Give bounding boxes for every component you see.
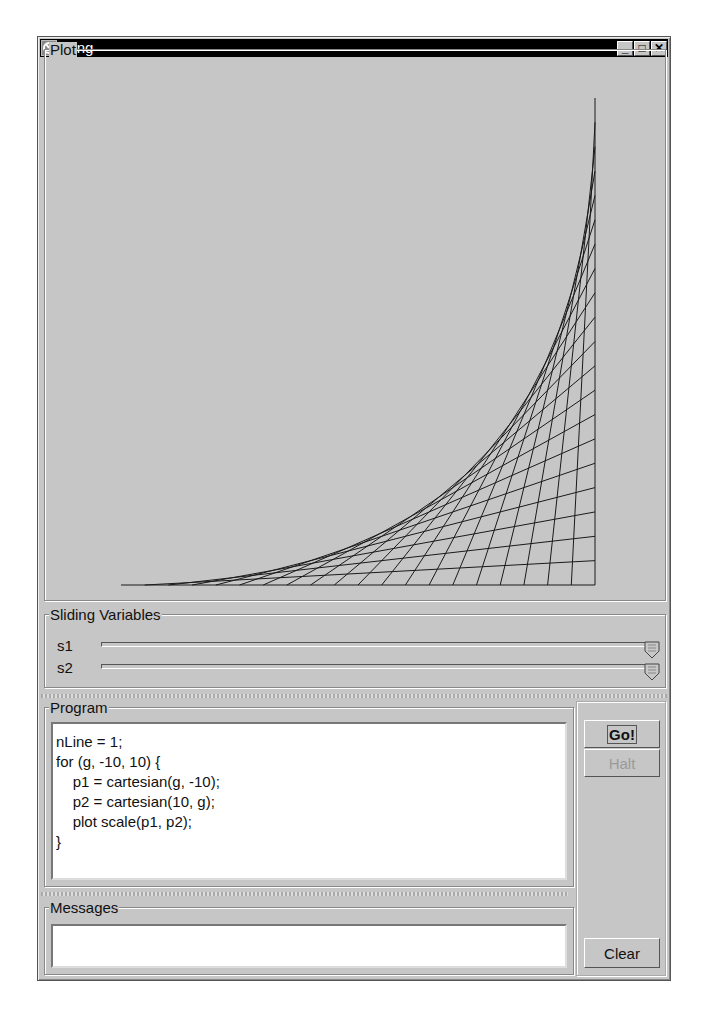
program-group-title: Program xyxy=(49,700,109,716)
program-group: Program nLine = 1; for (g, -10, 10) { p1… xyxy=(44,707,574,887)
halt-button[interactable]: Halt xyxy=(584,749,660,777)
halt-button-label: Halt xyxy=(609,755,636,772)
program-editor[interactable]: nLine = 1; for (g, -10, 10) { p1 = carte… xyxy=(51,722,567,880)
messages-output[interactable] xyxy=(51,924,567,968)
plot-line xyxy=(548,147,595,585)
sling-window: Sling _ □ ✕ Plot Sliding Variables s1 s2 xyxy=(37,36,671,981)
plot-line xyxy=(524,171,595,585)
messages-group: Messages xyxy=(44,907,574,975)
slider-s1[interactable] xyxy=(101,642,651,647)
go-button-label: Go! xyxy=(607,725,637,744)
sliding-variables-group: Sliding Variables s1 s2 xyxy=(44,614,666,688)
plot-canvas xyxy=(45,50,665,600)
program-messages-divider[interactable] xyxy=(41,892,568,896)
sliding-variables-title: Sliding Variables xyxy=(49,607,162,623)
clear-button-label: Clear xyxy=(604,945,640,962)
go-button[interactable]: Go! xyxy=(584,720,660,748)
slider-label-s2: s2 xyxy=(57,658,73,678)
plot-group: Plot xyxy=(44,49,666,601)
clear-button[interactable]: Clear xyxy=(584,938,660,968)
slider-thumb-s1[interactable] xyxy=(644,641,660,659)
slider-row-s1: s1 xyxy=(45,636,665,656)
slider-row-s2: s2 xyxy=(45,658,665,678)
slider-label-s1: s1 xyxy=(57,636,73,656)
slider-s2[interactable] xyxy=(101,664,651,669)
plot-line xyxy=(571,122,595,585)
split-pane-divider[interactable] xyxy=(41,694,667,698)
messages-group-title: Messages xyxy=(49,900,119,916)
slider-thumb-s2[interactable] xyxy=(644,663,660,681)
